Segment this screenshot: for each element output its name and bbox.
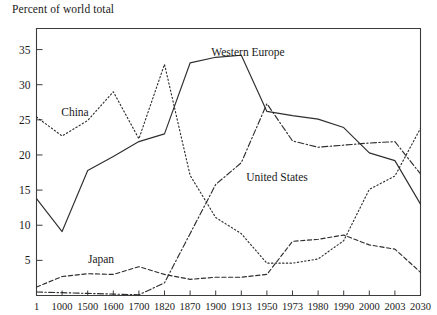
series-label-western-europe: Western Europe <box>211 46 284 59</box>
x-tick-label: 1600 <box>103 301 124 312</box>
y-tick-label: 35 <box>19 44 31 56</box>
x-tick-label: 1913 <box>231 301 252 312</box>
y-tick-label: 15 <box>19 184 31 196</box>
x-tick-label: 1973 <box>282 301 303 312</box>
series-line-china <box>37 64 421 263</box>
x-tick-label: 1000 <box>52 301 73 312</box>
y-axis-labels: 5101520253035 <box>19 44 31 267</box>
x-tick-label: 2030 <box>410 301 431 312</box>
x-tick-label: 1990 <box>333 301 354 312</box>
x-tick-label: 2003 <box>384 301 405 312</box>
y-tick-label: 5 <box>25 254 31 266</box>
chart-figure: Percent of world total 5101520253035 110… <box>0 0 437 315</box>
series-label-china: China <box>61 106 88 118</box>
x-tick-label: 1500 <box>77 301 98 312</box>
x-tick-label: 1900 <box>205 301 226 312</box>
chart-plot-area: 5101520253035 11000150016001700182018701… <box>0 0 437 315</box>
y-tick-label: 30 <box>19 79 31 91</box>
y-tick-label: 10 <box>19 219 31 231</box>
x-tick-label: 1870 <box>180 301 201 312</box>
x-tick-label: 1700 <box>128 301 149 312</box>
y-tick-label: 20 <box>19 149 31 161</box>
y-tick-label: 25 <box>19 114 31 126</box>
series-label-japan: Japan <box>88 253 114 266</box>
series-line-united-states <box>37 104 421 295</box>
series-label-united-states: United States <box>246 171 308 183</box>
x-tick-label: 1950 <box>256 301 277 312</box>
x-tick-label: 2000 <box>359 301 380 312</box>
x-tick-label: 1 <box>34 301 39 312</box>
x-tick-label: 1820 <box>154 301 175 312</box>
x-axis-labels: 1100015001600170018201870190019131950197… <box>34 301 431 312</box>
x-tick-label: 1980 <box>308 301 329 312</box>
